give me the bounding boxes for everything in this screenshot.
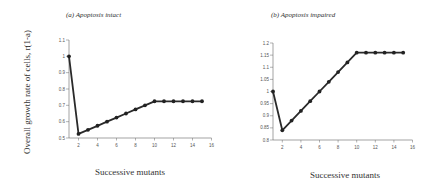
data-point xyxy=(364,51,368,55)
data-point xyxy=(401,51,405,55)
data-point xyxy=(346,61,350,65)
data-series xyxy=(67,54,204,135)
x-tick-label: 16 xyxy=(209,143,215,148)
data-point xyxy=(181,99,185,103)
x-axis-label: Successive mutants xyxy=(310,170,381,180)
data-point xyxy=(373,51,377,55)
y-tick-label: 1.2 xyxy=(263,41,270,46)
x-tick-label: 10 xyxy=(152,143,158,148)
data-point xyxy=(134,108,138,112)
data-point xyxy=(162,99,166,103)
data-point xyxy=(143,103,147,107)
data-point xyxy=(327,80,331,84)
x-tick-label: 4 xyxy=(96,143,99,148)
x-tick-label: 14 xyxy=(190,143,196,148)
y-tick-label: 1.15 xyxy=(260,53,269,58)
data-point xyxy=(392,51,396,55)
data-point xyxy=(172,99,176,103)
y-tick-label: 0.5 xyxy=(59,136,66,141)
x-tick-label: 10 xyxy=(354,145,360,150)
x-tick-label: 14 xyxy=(391,145,397,150)
data-point xyxy=(105,120,109,124)
data-point xyxy=(191,99,195,103)
data-point xyxy=(200,99,204,103)
axes: 0.80.850.90.9511.051.11.151.224681012141… xyxy=(260,41,415,150)
y-tick-label: 0.9 xyxy=(59,70,66,75)
y-tick-label: 1 xyxy=(266,89,269,94)
x-tick-label: 12 xyxy=(171,143,177,148)
data-point xyxy=(153,99,157,103)
data-point xyxy=(383,51,387,55)
data-point xyxy=(67,54,71,58)
data-point xyxy=(86,128,90,132)
x-tick-label: 16 xyxy=(410,145,416,150)
y-tick-label: 0.95 xyxy=(260,101,269,106)
data-line xyxy=(69,56,202,134)
data-point xyxy=(290,119,294,123)
y-tick-label: 0.9 xyxy=(263,113,270,118)
chart-title: (a) Apoptosis intact xyxy=(66,11,122,19)
data-series xyxy=(271,51,405,132)
x-tick-label: 6 xyxy=(318,145,321,150)
x-tick-label: 4 xyxy=(300,145,303,150)
data-point xyxy=(96,124,100,128)
data-point xyxy=(336,70,340,74)
data-point xyxy=(124,112,128,116)
x-tick-label: 8 xyxy=(134,143,137,148)
data-point xyxy=(115,116,119,120)
data-point xyxy=(77,132,81,136)
data-point xyxy=(308,99,312,103)
x-tick-label: 8 xyxy=(337,145,340,150)
x-tick-label: 2 xyxy=(281,145,284,150)
y-tick-label: 0.6 xyxy=(59,119,66,124)
data-point xyxy=(271,90,275,94)
data-point xyxy=(318,90,322,94)
y-tick-label: 0.8 xyxy=(263,138,270,143)
y-tick-label: 0.85 xyxy=(260,125,269,130)
x-axis-label: Successive mutants xyxy=(95,167,166,177)
chart-title: (b) Apoptosis impaired xyxy=(271,11,336,19)
y-tick-label: 1.1 xyxy=(59,38,66,43)
chart-apoptosis-impaired: (b) Apoptosis impaired Successive mutant… xyxy=(260,11,415,180)
data-point xyxy=(280,128,284,132)
y-axis-label: Overall growth rate of cells, r(1-a) xyxy=(22,30,32,154)
data-point xyxy=(299,109,303,113)
x-tick-label: 2 xyxy=(77,143,80,148)
x-tick-label: 6 xyxy=(115,143,118,148)
data-point xyxy=(355,51,359,55)
chart-apoptosis-intact: (a) Apoptosis intact Successive mutants … xyxy=(59,11,215,177)
y-tick-label: 0.8 xyxy=(59,87,66,92)
y-tick-label: 0.7 xyxy=(59,103,66,108)
data-line xyxy=(273,53,403,131)
y-tick-label: 1.05 xyxy=(260,77,269,82)
figure: Overall growth rate of cells, r(1-a) (a)… xyxy=(0,0,438,186)
y-tick-label: 1 xyxy=(62,54,65,59)
y-tick-label: 1.1 xyxy=(263,65,270,70)
x-tick-label: 12 xyxy=(373,145,379,150)
